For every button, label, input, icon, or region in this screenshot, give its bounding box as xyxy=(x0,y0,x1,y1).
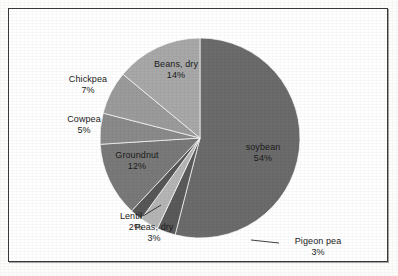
pie-label-pigeon-pea-name: Pigeon pea xyxy=(280,236,356,247)
pie-label-soybean: soybean 54% xyxy=(232,142,294,164)
pie-label-beans-dry-name: Beans, dry xyxy=(138,59,214,70)
pie-label-beans-dry: Beans, dry 14% xyxy=(138,59,214,81)
pie-label-pigeon-pea-value: 3% xyxy=(280,247,356,258)
pie-label-pigeon-pea: Pigeon pea 3% xyxy=(280,236,356,258)
pie-label-cowpea-value: 5% xyxy=(50,125,118,136)
pie-label-peas-dry-value: 3% xyxy=(118,233,190,244)
pie-label-soybean-value: 54% xyxy=(232,153,294,164)
pie-label-cowpea: Cowpea 5% xyxy=(50,114,118,136)
pie-label-chickpea-name: Chickpea xyxy=(54,74,122,85)
pie-label-beans-dry-value: 14% xyxy=(138,70,214,81)
pie-label-peas-dry-name: Peas, dry xyxy=(118,222,190,233)
pie-label-peas-dry: Peas, dry 3% xyxy=(118,222,190,244)
pie-label-soybean-name: soybean xyxy=(232,142,294,153)
pie-label-chickpea-value: 7% xyxy=(54,85,122,96)
pie-label-groundnut: Groundnut 12% xyxy=(99,150,175,172)
pie-label-cowpea-name: Cowpea xyxy=(50,114,118,125)
leader-line-pigeon-pea xyxy=(251,240,279,243)
pie-label-chickpea: Chickpea 7% xyxy=(54,74,122,96)
pie-label-groundnut-value: 12% xyxy=(99,161,175,172)
pie-label-lentil-name: Lentil xyxy=(80,211,142,222)
pie-chart xyxy=(0,0,398,276)
pie-label-groundnut-name: Groundnut xyxy=(99,150,175,161)
